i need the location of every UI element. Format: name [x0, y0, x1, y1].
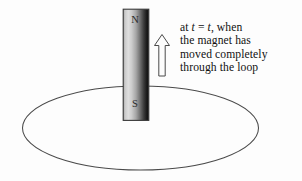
- magnet-south-pole-label: S: [128, 98, 142, 109]
- figure-caption: at t = t, when the magnet has moved comp…: [180, 21, 300, 75]
- motion-arrow-icon: [155, 35, 170, 77]
- caption-line-2: the magnet has: [180, 34, 300, 47]
- caption-line-4: through the loop: [180, 61, 300, 74]
- caption-line-1: at t = t, when: [180, 21, 300, 34]
- magnet-north-pole-label: N: [128, 14, 142, 25]
- caption-line-1-equals: =: [195, 21, 208, 34]
- caption-line-1-suffix: , when: [211, 21, 243, 34]
- caption-line-1-prefix: at: [180, 21, 192, 34]
- physics-figure-magnet-loop: N S at t = t, when the magnet has moved …: [0, 0, 302, 181]
- caption-line-3: moved completely: [180, 48, 300, 61]
